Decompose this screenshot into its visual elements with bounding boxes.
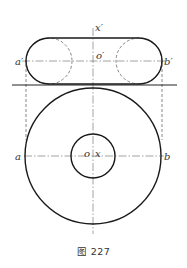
projection-diagram: x′ o′ a′ b′ o x a b xyxy=(0,0,187,268)
label-a: a xyxy=(15,151,21,162)
label-a-prime: a′ xyxy=(15,56,24,67)
front-view: x′ o′ a′ b′ xyxy=(15,22,173,140)
label-b-prime: b′ xyxy=(164,56,173,67)
label-b: b xyxy=(164,151,170,162)
figure-caption: 图 227 xyxy=(0,244,187,258)
label-x-prime: x′ xyxy=(95,22,104,33)
label-o: o xyxy=(84,148,90,159)
label-o-prime: o′ xyxy=(96,50,105,61)
label-x: x xyxy=(95,148,101,159)
